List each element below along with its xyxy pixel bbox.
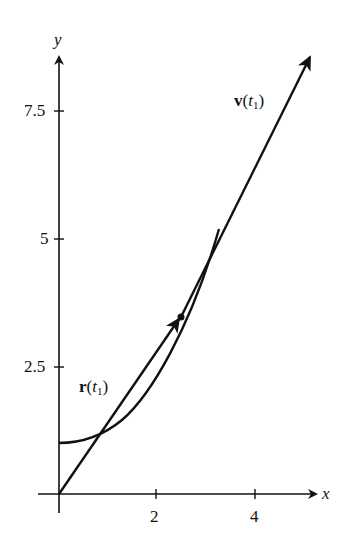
curve-r	[59, 229, 219, 443]
label-r-sub: 1	[97, 385, 103, 397]
y-axis-label: y	[54, 31, 62, 48]
x-axis-label: x	[322, 485, 330, 502]
figure: y x 2 4 2.5 5 7.5 r(t1) v(t1)	[0, 0, 350, 551]
label-r-name: r	[79, 377, 87, 396]
velocity-vector-label: v(t1)	[234, 92, 264, 111]
x-tick-label-2: 2	[150, 508, 159, 525]
position-vector-label: r(t1)	[79, 378, 108, 397]
position-vector-r	[59, 319, 179, 494]
x-tick-label-4: 4	[250, 508, 259, 525]
label-v-sub: 1	[253, 99, 259, 111]
point-r-t1	[178, 314, 185, 321]
label-v-name: v	[234, 91, 243, 110]
y-tick-label-2-5: 2.5	[24, 358, 45, 375]
diagram-canvas	[0, 0, 350, 551]
y-tick-label-7-5: 7.5	[24, 102, 45, 119]
y-tick-label-5: 5	[40, 230, 49, 247]
